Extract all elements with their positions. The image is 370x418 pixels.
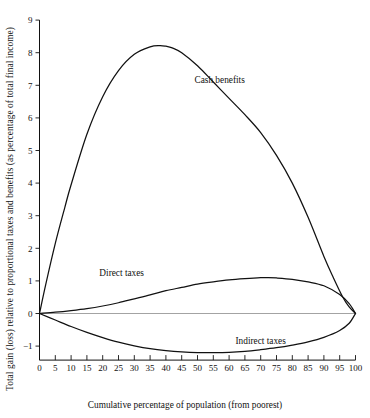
chart-plot-area: −101234567890510152025303540455055606570…	[0, 0, 370, 418]
x-tick-label: 60	[225, 363, 235, 373]
y-tick-label: 9	[28, 15, 33, 25]
series-label-direct-taxes: Direct taxes	[99, 268, 144, 278]
y-tick-label: 8	[28, 48, 33, 58]
x-tick-label: 0	[37, 363, 42, 373]
y-tick-label: 3	[28, 211, 33, 221]
x-tick-label: 90	[319, 363, 329, 373]
x-axis-title: Cumulative percentage of population (fro…	[88, 400, 282, 410]
x-tick-label: 55	[209, 363, 219, 373]
series-line-indirect-taxes	[40, 314, 356, 353]
tick-labels: −101234567890510152025303540455055606570…	[23, 15, 363, 373]
y-tick-label: 0	[28, 309, 33, 319]
x-tick-label: 15	[82, 363, 92, 373]
x-tick-label: 20	[98, 363, 108, 373]
series-label-cash-benefits: Cash benefits	[194, 75, 245, 85]
x-tick-label: 25	[114, 363, 124, 373]
x-tick-label: 70	[256, 363, 266, 373]
y-tick-label: −1	[23, 341, 33, 351]
chart-figure: Total gain (loss) relative to proportion…	[0, 0, 370, 418]
y-tick-label: 2	[28, 244, 33, 254]
y-tick-label: 6	[28, 113, 33, 123]
x-tick-label: 65	[240, 363, 250, 373]
x-tick-label: 75	[272, 363, 282, 373]
x-tick-label: 35	[146, 363, 156, 373]
x-tick-label: 85	[304, 363, 314, 373]
x-tick-label: 80	[288, 363, 298, 373]
y-tick-label: 1	[28, 276, 33, 286]
series-line-direct-taxes	[40, 278, 356, 314]
x-tick-label: 10	[67, 363, 77, 373]
y-tick-label: 5	[28, 146, 33, 156]
x-tick-label: 5	[53, 363, 58, 373]
x-tick-label: 30	[130, 363, 140, 373]
x-tick-label: 95	[335, 363, 345, 373]
x-tick-label: 40	[161, 363, 171, 373]
series-curves	[40, 46, 356, 353]
x-tick-label: 50	[193, 363, 203, 373]
x-axis-title-container: Cumulative percentage of population (fro…	[0, 400, 370, 410]
y-tick-label: 4	[28, 178, 33, 188]
x-tick-label: 100	[349, 363, 363, 373]
series-line-cash-benefits	[40, 46, 356, 314]
series-annotations: Cash benefitsDirect taxesIndirect taxes	[99, 75, 286, 346]
series-label-indirect-taxes: Indirect taxes	[236, 336, 287, 346]
y-tick-label: 7	[28, 81, 33, 91]
x-tick-label: 45	[177, 363, 187, 373]
